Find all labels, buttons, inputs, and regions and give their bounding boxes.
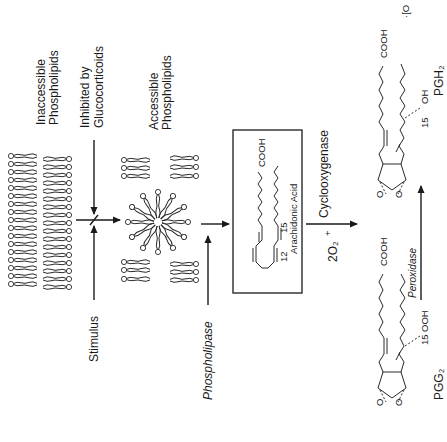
svg-text:Inaccessible: Inaccessible bbox=[34, 59, 48, 125]
inhibitor-label: Inhibited by Glucocorticoids bbox=[78, 46, 106, 128]
svg-text:+: + bbox=[322, 230, 333, 236]
inaccessible-label: Inaccessible Phospholipids bbox=[34, 50, 61, 125]
svg-text:Accessible: Accessible bbox=[147, 72, 161, 130]
svg-text:Peroxidase: Peroxidase bbox=[407, 248, 418, 298]
pgg2-cooh-label: COOH bbox=[378, 237, 389, 266]
svg-text:Cyclooxygenase: Cyclooxygenase bbox=[317, 130, 331, 218]
svg-text:Phospholipase: Phospholipase bbox=[201, 321, 215, 400]
pgh2-structure bbox=[378, 64, 420, 194]
stimulus-arrows bbox=[76, 140, 120, 300]
accessible-phospholipids bbox=[121, 155, 198, 282]
phospholipase-label: Phospholipase bbox=[201, 321, 215, 400]
pgh2-extra-label: ·[O bbox=[400, 5, 411, 18]
pgg2-o2: O bbox=[393, 399, 404, 406]
pgg2-ooh-label: OOH bbox=[419, 310, 430, 332]
peroxidase-label: Peroxidase bbox=[407, 248, 418, 298]
pgh2-cooh-label: COOH bbox=[378, 29, 389, 58]
pgh2-label: PGH₂ bbox=[432, 65, 446, 96]
pgh2-c15-label: 15 bbox=[419, 117, 430, 128]
stimulus-label: Stimulus bbox=[87, 316, 101, 362]
pgg2-label: PGG₂ bbox=[432, 368, 446, 400]
svg-text:Phospholipids: Phospholipids bbox=[160, 55, 174, 130]
pgh2-o2: O bbox=[393, 191, 404, 198]
svg-text:Phospholipids: Phospholipids bbox=[47, 50, 61, 125]
cyclooxygenase-label: Cyclooxygenase bbox=[317, 130, 331, 218]
pgh2-oh-label: OH bbox=[419, 90, 430, 104]
accessible-label: Accessible Phospholipids bbox=[147, 55, 174, 130]
aa-cooh-label: COOH bbox=[256, 138, 267, 167]
oxygen-label: 2O₂ + bbox=[322, 230, 340, 262]
micelle bbox=[125, 189, 190, 254]
pgg2-c15-label: 15 bbox=[419, 334, 430, 345]
svg-text:PGG₂: PGG₂ bbox=[432, 368, 446, 400]
pathway-diagram: Inaccessible Phospholipids Inhibited by … bbox=[0, 0, 447, 442]
svg-text:Stimulus: Stimulus bbox=[87, 316, 101, 362]
phospholipase-arrows bbox=[201, 224, 229, 305]
svg-text:Inhibited by: Inhibited by bbox=[78, 67, 92, 128]
arachidonic-acid-structure bbox=[253, 166, 281, 268]
pgg2-o1: O bbox=[374, 399, 385, 406]
pgh2-o1: O bbox=[374, 191, 385, 198]
svg-text:Glucocorticoids: Glucocorticoids bbox=[92, 46, 106, 128]
arachidonic-acid-label: Arachidonic Acid bbox=[288, 184, 299, 254]
inaccessible-bilayer bbox=[8, 153, 71, 289]
svg-text:PGH₂: PGH₂ bbox=[432, 65, 446, 96]
svg-text:2O₂: 2O₂ bbox=[326, 241, 340, 262]
